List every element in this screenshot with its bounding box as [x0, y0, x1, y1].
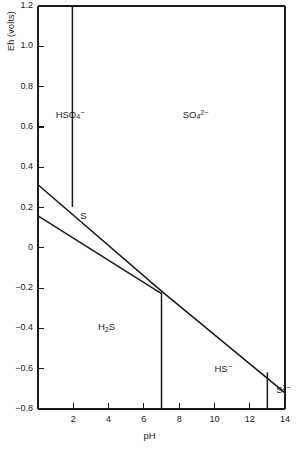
y-tick-label: −0.8 — [3, 403, 33, 413]
eh-ph-pourbaix-diagram: Eh (volts) 1.21.00.80.60.40.20−0.2−0.4−0… — [0, 0, 299, 453]
x-tick-label: 10 — [202, 414, 226, 424]
y-tick-label: −0.2 — [3, 282, 33, 292]
y-tick-label: 0.6 — [3, 121, 33, 131]
x-tick-label: 6 — [132, 414, 156, 424]
y-tick-label: 0 — [3, 242, 33, 252]
species-label-so4: SO42− — [183, 109, 209, 120]
y-tick-label: −0.6 — [3, 363, 33, 373]
plot-canvas — [0, 0, 299, 453]
species-label-s: S — [80, 211, 86, 221]
y-tick-label: −0.4 — [3, 322, 33, 332]
y-tick-label: 1.0 — [3, 40, 33, 50]
x-tick-label: 14 — [273, 414, 297, 424]
y-tick-label: 0.2 — [3, 202, 33, 212]
species-label-hso4: HSO4− — [56, 109, 85, 120]
species-label-s2: S2− — [276, 384, 290, 394]
phase-boundaries — [38, 6, 285, 409]
y-tick-label: 1.2 — [3, 0, 33, 10]
x-tick-label: 12 — [238, 414, 262, 424]
x-axis-title: pH — [0, 430, 299, 441]
y-tick-label: 0.4 — [3, 161, 33, 171]
x-tick-label: 8 — [167, 414, 191, 424]
x-tick-label: 2 — [61, 414, 85, 424]
species-label-h2s: H2S — [98, 322, 115, 333]
y-tick-label: 0.8 — [3, 81, 33, 91]
boundary-h2s-s-boundary — [38, 216, 162, 294]
x-tick-label: 4 — [97, 414, 121, 424]
species-label-hs: HS− — [214, 363, 231, 373]
